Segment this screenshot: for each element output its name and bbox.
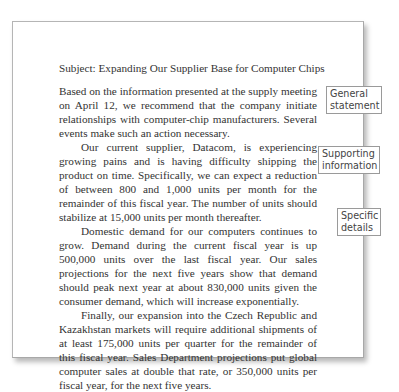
memo-body: Subject: Expanding Our Supplier Base for…	[59, 61, 317, 392]
paragraph-supplier: Our current supplier, Datacom, is experi…	[59, 140, 317, 224]
paragraph-general-statement: Based on the information presented at th…	[59, 84, 317, 140]
annotation-label-line: information	[322, 160, 377, 172]
paragraph-expansion: Finally, our expansion into the Czech Re…	[59, 308, 317, 392]
annotation-specific-details: Specific details	[337, 208, 381, 236]
annotation-label-line: details	[341, 222, 378, 234]
annotation-general-statement: General statement	[326, 86, 382, 114]
paragraph-domestic-demand: Domestic demand for our computers contin…	[59, 224, 317, 308]
annotation-label-line: Supporting	[322, 148, 377, 160]
annotation-supporting-information: Supporting information	[318, 146, 380, 174]
document-page: Subject: Expanding Our Supplier Base for…	[12, 21, 364, 358]
annotation-label-line: statement	[330, 100, 379, 112]
annotation-label-line: General	[330, 88, 379, 100]
annotation-label-line: Specific	[341, 210, 378, 222]
subject-line: Subject: Expanding Our Supplier Base for…	[59, 61, 317, 75]
